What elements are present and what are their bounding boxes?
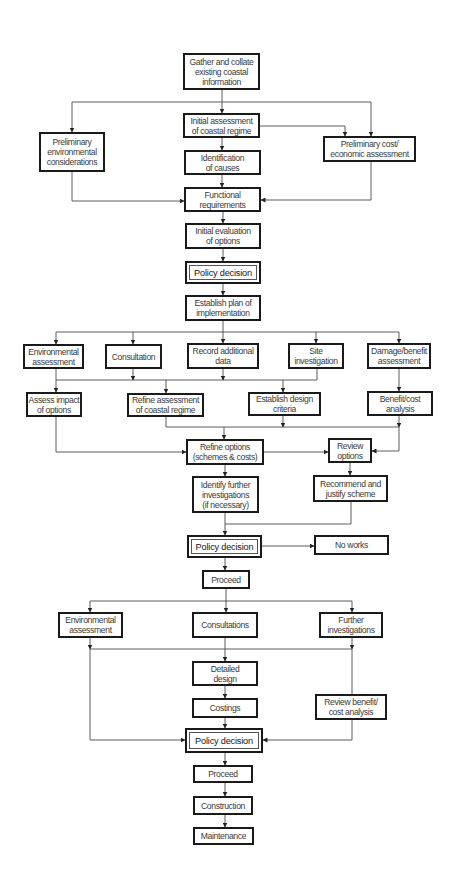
coastal-scheme-flowchart: Gather and collate existing coastal info…: [0, 0, 456, 883]
policy-inner-frame: Policy decision: [189, 732, 259, 749]
node-further-investigations: Further investigations: [319, 612, 383, 638]
node-label: Gather and collate existing coastal info…: [190, 57, 254, 87]
node-environmental-assessment-1: Environmental assessment: [23, 344, 84, 369]
node-label: Assess impact of options: [29, 395, 80, 415]
node-preliminary-cost: Preliminary cost/ economic assessment: [323, 136, 416, 162]
node-policy-decision-3: Policy decision: [185, 728, 263, 753]
node-label: Review options: [337, 441, 363, 461]
node-review-benefit-cost: Review benefit/ cost analysis: [315, 694, 387, 720]
node-site-investigation: Site investigation: [288, 343, 344, 369]
node-label: Maintenance: [201, 831, 246, 841]
node-consultations: Consultations: [192, 612, 258, 638]
node-label: Establish design criteria: [256, 394, 313, 414]
node-label: Review benefit/ cost analysis: [324, 697, 378, 717]
node-recommend-scheme: Recommend and justify scheme: [313, 475, 388, 502]
node-no-works: No works: [314, 535, 389, 555]
node-assess-impact: Assess impact of options: [26, 392, 82, 417]
node-label: Preliminary environmental considerations: [47, 137, 98, 167]
node-label: Policy decision: [196, 542, 254, 552]
node-identification-of-causes: Identification of causes: [184, 150, 261, 175]
node-record-additional-data: Record additional data: [187, 343, 259, 369]
node-refine-assessment: Refine assessment of coastal regime: [127, 393, 204, 417]
node-proceed-1: Proceed: [202, 570, 250, 589]
policy-inner-frame: Policy decision: [189, 265, 257, 280]
node-establish-plan: Establish plan of implementation: [185, 295, 261, 321]
node-label: Recommend and justify scheme: [320, 479, 381, 499]
node-label: Damage/benefit assessment: [371, 346, 427, 366]
node-label: Proceed: [211, 575, 241, 585]
node-damage-benefit: Damage/benefit assessment: [367, 343, 431, 369]
node-policy-decision-1: Policy decision: [185, 261, 261, 284]
node-establish-design-criteria: Establish design criteria: [248, 392, 321, 416]
node-label: Initial evaluation of options: [195, 226, 250, 246]
node-costings: Costings: [192, 698, 258, 718]
node-benefit-cost-analysis: Benefit/cost analysis: [367, 391, 433, 416]
node-label: Environmental assessment: [65, 615, 115, 635]
node-gather-information: Gather and collate existing coastal info…: [183, 53, 260, 90]
node-initial-assessment: Initial assessment of coastal regime: [183, 113, 260, 138]
node-label: Identification of causes: [201, 153, 244, 173]
node-label: Site investigation: [294, 346, 337, 366]
node-label: Proceed: [208, 769, 238, 779]
node-label: Policy decision: [194, 268, 252, 278]
node-label: Costings: [210, 703, 241, 713]
node-identify-further: Identify further investigations (if nece…: [192, 476, 259, 513]
node-preliminary-environmental: Preliminary environmental considerations: [39, 132, 105, 172]
node-refine-options: Refine options (schemes & costs): [186, 439, 264, 465]
node-consultation: Consultation: [105, 344, 162, 369]
node-label: Identify further investigations (if nece…: [201, 480, 250, 510]
node-label: Consultation: [112, 352, 156, 362]
node-label: Construction: [201, 801, 245, 811]
node-label: Benefit/cost analysis: [380, 394, 421, 414]
node-label: Establish plan of implementation: [194, 298, 251, 318]
node-label: Further investigations: [327, 615, 374, 635]
node-review-options: Review options: [328, 438, 372, 463]
node-label: Policy decision: [195, 736, 253, 746]
node-label: Preliminary cost/ economic assessment: [330, 139, 408, 159]
node-policy-decision-2: Policy decision: [187, 535, 262, 558]
node-functional-requirements: Functional requirements: [184, 187, 261, 212]
node-label: Record additional data: [193, 346, 254, 366]
node-label: No works: [335, 540, 368, 550]
node-label: Environmental assessment: [28, 347, 78, 367]
node-proceed-2: Proceed: [193, 765, 253, 783]
node-label: Functional requirements: [200, 190, 246, 210]
node-label: Initial assessment of coastal regime: [190, 116, 252, 136]
node-initial-evaluation: Initial evaluation of options: [185, 223, 261, 249]
node-construction: Construction: [193, 796, 253, 815]
node-environmental-assessment-2: Environmental assessment: [58, 612, 123, 638]
node-label: Consultations: [201, 620, 249, 630]
node-label: Detailed design: [211, 664, 240, 684]
policy-inner-frame: Policy decision: [191, 539, 258, 554]
node-label: Refine assessment of coastal regime: [132, 395, 199, 415]
node-detailed-design: Detailed design: [192, 661, 258, 686]
node-label: Refine options (schemes & costs): [193, 442, 258, 462]
node-maintenance: Maintenance: [193, 827, 254, 845]
